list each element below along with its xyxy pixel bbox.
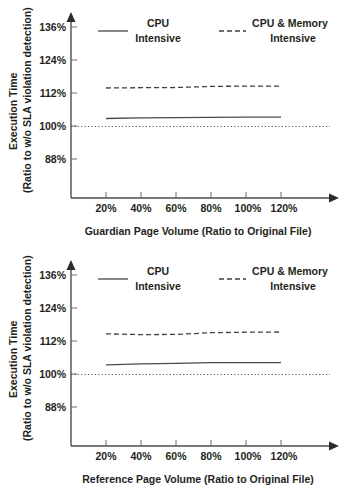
- x-axis-title: Guardian Page Volume (Ratio to Original …: [85, 225, 312, 237]
- y-tick-label-100: 100%: [39, 120, 67, 132]
- legend-label-cpu-memory-intensive-line2: Intensive: [270, 280, 316, 292]
- y-tick-label-88: 88%: [45, 401, 67, 413]
- series-line-cpu-memory-intensive: [106, 86, 281, 88]
- x-tick-label-60: 60%: [165, 450, 187, 462]
- x-tick-label-60: 60%: [165, 202, 187, 214]
- x-tick-label-80: 80%: [200, 450, 222, 462]
- y-axis-arrow-icon: [67, 260, 76, 270]
- x-tick-label-80: 80%: [200, 202, 222, 214]
- y-tick-label-88: 88%: [45, 153, 67, 165]
- chart-canvas-top: Execution Time (Ratio to w/o SLA violati…: [0, 0, 355, 248]
- legend-label-cpu-memory-intensive-line1: CPU & Memory: [252, 265, 328, 277]
- legend-label-cpu-memory-intensive-line2: Intensive: [270, 32, 316, 44]
- legend: CPU Intensive CPU & Memory Intensive: [98, 17, 328, 44]
- chart-figure-top: Execution Time (Ratio to w/o SLA violati…: [0, 0, 355, 248]
- y-axis-arrow-icon: [67, 12, 76, 22]
- series-line-cpu-intensive: [106, 363, 281, 365]
- chart-figure-bottom: Execution Time (Ratio to w/o SLA violati…: [0, 248, 355, 496]
- legend-label-cpu-memory-intensive-line1: CPU & Memory: [252, 17, 328, 29]
- x-axis-title: Reference Page Volume (Ratio to Original…: [82, 473, 313, 485]
- y-axis-title-line1: Execution Time: [7, 72, 19, 150]
- y-tick-label-136: 136%: [39, 21, 67, 33]
- x-tick-label-100: 100%: [235, 450, 263, 462]
- y-tick-label-136: 136%: [39, 269, 67, 281]
- legend-label-cpu-intensive-line2: Intensive: [135, 32, 181, 44]
- legend: CPU Intensive CPU & Memory Intensive: [98, 265, 328, 292]
- x-tick-label-120: 120%: [271, 450, 299, 462]
- x-tick-label-20: 20%: [95, 450, 117, 462]
- x-tick-label-20: 20%: [95, 202, 117, 214]
- x-axis-arrow-icon: [329, 194, 339, 203]
- legend-label-cpu-intensive-line1: CPU: [147, 265, 169, 277]
- y-tick-label-124: 124%: [39, 54, 67, 66]
- legend-label-cpu-intensive-line2: Intensive: [135, 280, 181, 292]
- series-line-cpu-memory-intensive: [106, 332, 281, 335]
- x-tick-label-40: 40%: [130, 450, 152, 462]
- x-tick-label-120: 120%: [271, 202, 299, 214]
- x-axis-arrow-icon: [329, 442, 339, 451]
- x-tick-label-100: 100%: [235, 202, 263, 214]
- y-tick-label-100: 100%: [39, 368, 67, 380]
- chart-canvas-bottom: Execution Time (Ratio to w/o SLA violati…: [0, 248, 355, 496]
- series-line-cpu-intensive: [106, 117, 281, 118]
- y-axis-title-line2: (Ratio to w/o SLA violation detection): [21, 7, 33, 193]
- y-axis-title-line2: (Ratio to w/o SLA violation detection): [21, 255, 33, 441]
- y-tick-label-124: 124%: [39, 302, 67, 314]
- y-tick-label-112: 112%: [40, 87, 67, 99]
- y-tick-label-112: 112%: [40, 335, 67, 347]
- y-axis-title-line1: Execution Time: [7, 320, 19, 398]
- legend-label-cpu-intensive-line1: CPU: [147, 17, 169, 29]
- x-tick-label-40: 40%: [130, 202, 152, 214]
